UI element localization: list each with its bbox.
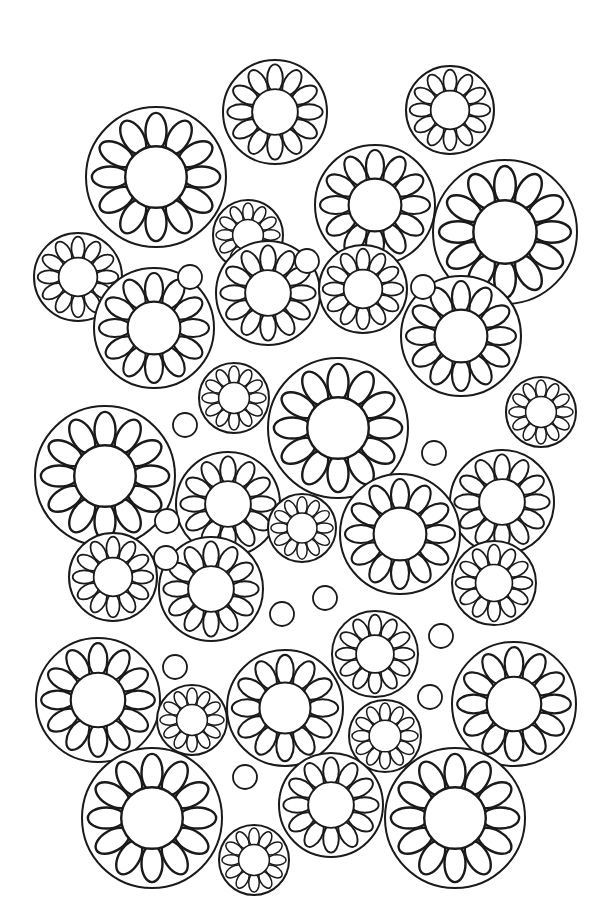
petal	[482, 808, 519, 829]
petal	[445, 754, 466, 791]
flower-medallion	[340, 474, 460, 594]
small-circle	[173, 413, 197, 437]
flower-medallion	[35, 406, 175, 546]
petal	[142, 845, 163, 882]
small-circle	[233, 765, 257, 789]
petal	[452, 281, 470, 313]
flower-medallion	[223, 60, 327, 164]
petal	[132, 466, 169, 487]
petal	[380, 282, 403, 295]
petal	[365, 418, 402, 439]
petal	[380, 750, 391, 769]
petal	[307, 699, 338, 716]
petal	[488, 599, 501, 621]
petal	[267, 132, 283, 160]
petal	[505, 728, 524, 761]
petal	[88, 808, 125, 829]
flower-medallion	[319, 245, 407, 333]
small-circle	[178, 265, 202, 289]
petal	[328, 364, 349, 401]
flower-medallion	[452, 541, 536, 625]
petal	[248, 393, 267, 404]
flower-center	[121, 787, 183, 849]
petal	[505, 647, 524, 680]
petal	[522, 494, 550, 510]
petal	[288, 285, 316, 301]
coloring-page: Flower circles coloring page	[0, 0, 605, 910]
petal	[315, 523, 333, 533]
flower-center	[252, 89, 298, 135]
flower-medallion	[36, 638, 160, 762]
flower-medallion	[332, 611, 418, 697]
petal	[423, 525, 455, 543]
petal	[92, 167, 129, 188]
petal	[177, 319, 209, 337]
flower-center	[128, 302, 181, 355]
flower-medallion	[82, 748, 222, 888]
flower-center	[177, 705, 208, 736]
petal	[276, 730, 293, 761]
flower-medallion	[268, 494, 336, 562]
petal	[439, 221, 477, 243]
petal	[380, 703, 391, 722]
flower-center	[435, 310, 488, 363]
petal	[369, 671, 382, 694]
petal	[323, 825, 339, 853]
petal	[297, 497, 307, 515]
petal	[488, 545, 501, 567]
petal	[536, 425, 547, 444]
flower-center	[94, 558, 133, 597]
petal	[260, 313, 276, 341]
petal	[229, 412, 240, 431]
flower-medallion	[385, 748, 525, 888]
petal	[220, 456, 236, 484]
flower-circles-artwork	[0, 0, 605, 910]
flower-center	[424, 787, 486, 849]
petal	[494, 454, 510, 482]
petal	[203, 541, 219, 569]
petal	[122, 691, 155, 710]
flower-center	[259, 682, 310, 733]
flower-center	[245, 270, 291, 316]
flower-medallion	[69, 533, 157, 621]
flower-center	[205, 481, 251, 527]
petal	[145, 351, 163, 383]
petal	[274, 418, 311, 439]
petal	[509, 407, 528, 418]
petal	[222, 855, 241, 866]
flower-center	[526, 397, 557, 428]
petal	[391, 808, 428, 829]
flower-center	[479, 479, 525, 525]
flower-center	[59, 258, 98, 297]
petal	[323, 757, 339, 785]
flower-medallion	[506, 377, 576, 447]
petal	[283, 797, 311, 813]
flower-center	[349, 179, 402, 232]
petal	[295, 104, 323, 120]
petal	[297, 541, 307, 559]
petal	[231, 581, 259, 597]
petal	[202, 393, 221, 404]
petal	[443, 127, 456, 150]
flower-center	[374, 508, 427, 561]
petal	[533, 221, 571, 243]
petal	[180, 496, 208, 512]
small-circle	[411, 275, 435, 299]
flower-center	[344, 270, 383, 309]
petal	[41, 691, 74, 710]
flower-center	[219, 383, 250, 414]
petal	[142, 754, 163, 791]
small-circle	[163, 655, 187, 679]
flower-center	[369, 720, 401, 752]
petal	[249, 874, 260, 893]
petal	[443, 70, 456, 93]
petal	[467, 103, 490, 116]
small-circle	[429, 624, 453, 648]
petal	[276, 655, 293, 686]
small-circle	[295, 249, 319, 273]
petal	[73, 570, 96, 583]
flower-center	[125, 146, 187, 208]
petal	[89, 643, 108, 676]
petal	[323, 282, 346, 295]
petal	[183, 167, 220, 188]
